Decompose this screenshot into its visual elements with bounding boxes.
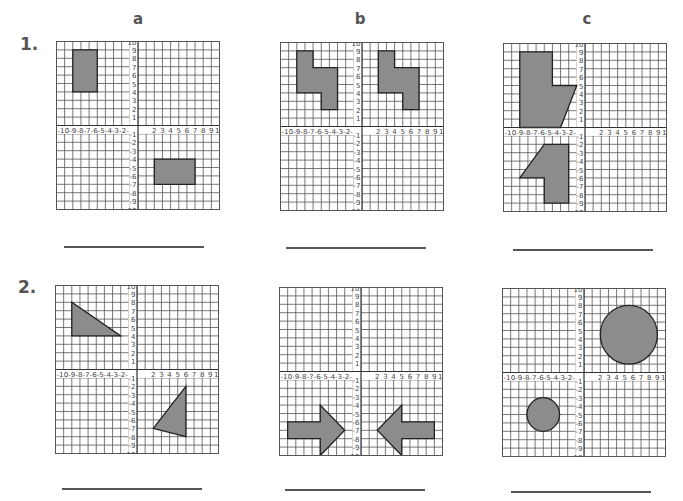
y-tick-label: -2 (577, 141, 584, 149)
y-tick-label: -6 (577, 175, 585, 183)
y-tick-label: 7 (579, 66, 583, 74)
y-tick-label: 6 (355, 318, 360, 326)
column-label-a: a (123, 10, 153, 28)
x-tick-label: 3 (606, 374, 610, 382)
y-tick-label: 10 (351, 287, 360, 293)
y-tick-label: 1 (132, 114, 136, 122)
x-tick-label: 7 (416, 373, 420, 381)
x-tick-label: 5 (400, 373, 404, 381)
y-tick-label: -7 (577, 183, 584, 191)
y-tick-label: -1 (577, 133, 584, 141)
y-tick-label: -6 (130, 173, 138, 181)
x-tick-label: 4 (167, 371, 172, 379)
x-tick-label: 3 (607, 129, 611, 137)
y-tick-label: 5 (131, 325, 135, 333)
y-tick-label: -7 (353, 427, 360, 435)
y-tick-label: -9 (576, 445, 583, 453)
x-tick-label: 9 (656, 129, 660, 137)
y-tick-label: -7 (129, 425, 136, 433)
y-tick-label: -7 (130, 181, 137, 189)
y-tick-label: 9 (578, 294, 582, 302)
y-tick-label: 9 (579, 49, 583, 57)
x-tick-label: 5 (401, 128, 405, 136)
y-tick-label: 4 (131, 333, 136, 341)
y-tick-label: -4 (129, 400, 137, 408)
y-tick-label: -3 (353, 394, 360, 402)
problem-number-1: 1. (20, 34, 38, 54)
y-tick-label: -8 (130, 190, 137, 198)
y-tick-label: -10 (125, 207, 136, 211)
x-tick-label: 2 (599, 129, 603, 137)
y-tick-label: -8 (354, 191, 361, 199)
grid-2c: 10987654321-1-2-3-4-5-6-7-8-9-10-10-9-8-… (502, 288, 666, 461)
y-tick-label: -4 (577, 158, 585, 166)
y-tick-label: -1 (129, 375, 136, 383)
y-tick-label: 9 (131, 291, 135, 299)
x-tick-label: 7 (417, 128, 421, 136)
y-tick-label: 3 (355, 343, 359, 351)
answer-line-1c[interactable] (513, 249, 653, 251)
y-tick-label: -9 (353, 444, 360, 452)
x-tick-label: 9 (432, 373, 436, 381)
y-tick-label: -1 (130, 131, 137, 139)
problem-number-2: 2. (18, 277, 36, 297)
x-tick-label: 4 (614, 374, 619, 382)
y-tick-label: -6 (353, 419, 361, 427)
y-tick-label: -5 (354, 166, 361, 174)
y-tick-label: -6 (354, 174, 362, 182)
polygon-shape-1 (288, 405, 345, 455)
y-tick-label: -4 (353, 402, 361, 410)
y-tick-label: 2 (356, 107, 360, 115)
y-tick-label: 5 (132, 81, 136, 89)
polygon-shape-1 (297, 51, 338, 110)
y-tick-label: -5 (353, 411, 360, 419)
y-tick-label: 6 (132, 72, 137, 80)
x-tick-label: 2 (151, 371, 155, 379)
answer-line-1b[interactable] (286, 247, 426, 249)
y-tick-label: 2 (579, 108, 583, 116)
y-tick-label: 8 (578, 302, 582, 310)
y-tick-label: -10 (124, 451, 135, 455)
y-tick-label: -7 (354, 182, 361, 190)
circle-shape-1 (600, 305, 657, 364)
y-tick-label: 9 (132, 47, 136, 55)
y-tick-label: 10 (352, 42, 361, 48)
y-tick-label: -3 (129, 392, 136, 400)
x-tick-label: 9 (209, 127, 213, 135)
y-tick-label: 1 (356, 115, 360, 123)
y-tick-label: 4 (578, 336, 583, 344)
x-tick-label: 9 (433, 128, 437, 136)
y-tick-label: -4 (354, 157, 362, 165)
x-tick-label: 5 (176, 371, 180, 379)
y-tick-label: -9 (354, 199, 361, 207)
column-label-c: c (572, 10, 602, 28)
y-tick-label: 1 (355, 360, 359, 368)
answer-line-2c[interactable] (511, 491, 651, 493)
polygon-shape-2 (154, 159, 195, 184)
y-tick-label: 2 (578, 353, 582, 361)
y-tick-label: -2 (354, 140, 361, 148)
x-tick-label: 10 (662, 129, 667, 137)
y-tick-label: -8 (576, 437, 583, 445)
x-tick-label: 4 (168, 127, 173, 135)
y-tick-label: -10 (572, 209, 583, 213)
y-tick-label: 4 (356, 90, 361, 98)
y-tick-label: -8 (353, 436, 360, 444)
answer-line-2a[interactable] (62, 488, 202, 490)
x-tick-label: 3 (160, 127, 164, 135)
x-tick-label: 4 (615, 129, 620, 137)
y-tick-label: 4 (579, 91, 584, 99)
x-tick-label: 7 (640, 129, 644, 137)
x-tick-label: 6 (632, 129, 637, 137)
circle-shape-2 (527, 398, 560, 432)
x-tick-label: 5 (623, 374, 627, 382)
y-tick-label: -9 (130, 198, 137, 206)
x-tick-label: 5 (177, 127, 181, 135)
y-tick-label: 4 (132, 89, 137, 97)
answer-line-2b[interactable] (285, 489, 425, 491)
x-tick-label: 8 (201, 127, 205, 135)
y-tick-label: 3 (578, 344, 582, 352)
polygon-shape-2 (520, 144, 569, 203)
answer-line-1a[interactable] (64, 246, 204, 248)
x-tick-label: 10 (215, 127, 220, 135)
